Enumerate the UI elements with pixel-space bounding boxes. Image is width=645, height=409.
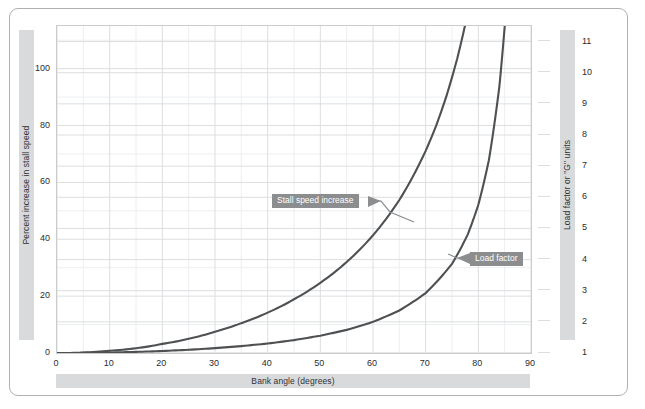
- y-axis-left-title-text: Percent increase in stall speed: [22, 126, 32, 245]
- y-axis-left-tick-40: 40: [40, 233, 50, 243]
- x-axis-tick-70: 70: [420, 358, 430, 368]
- y-axis-right-tick-7: 7: [582, 160, 587, 170]
- y-axis-left-tick-20: 20: [40, 290, 50, 300]
- x-axis-tick-30: 30: [209, 358, 219, 368]
- load-factor-curve: [57, 26, 507, 353]
- y-axis-right-tick-6: 6: [582, 191, 587, 201]
- y-axis-right-tick-4: 4: [582, 254, 587, 264]
- x-axis-tick-10: 10: [104, 358, 114, 368]
- y-axis-right-tickmark: [538, 227, 550, 228]
- x-axis-tick-80: 80: [472, 358, 482, 368]
- x-axis-tick-20: 20: [156, 358, 166, 368]
- plot-canvas: [57, 26, 531, 353]
- x-axis-tick-0: 0: [53, 358, 58, 368]
- x-axis-tick-60: 60: [367, 358, 377, 368]
- y-axis-right-tick-5: 5: [582, 222, 587, 232]
- y-axis-right-title: Load factor or "G" units: [560, 30, 575, 340]
- stall-speed-curve: [57, 26, 470, 353]
- y-axis-right-tick-8: 8: [582, 129, 587, 139]
- y-axis-right-tickmark: [538, 196, 550, 197]
- y-axis-right-tickmark: [538, 134, 550, 135]
- y-axis-right-tickmark: [538, 289, 550, 290]
- y-axis-right-tick-9: 9: [582, 98, 587, 108]
- y-axis-right-tickmark: [538, 258, 550, 259]
- y-axis-right-tickmark: [538, 40, 550, 41]
- annotation-load-factor-leader: [436, 253, 482, 287]
- y-axis-right-tickmark: [538, 352, 550, 353]
- y-axis-right-tick-3: 3: [582, 285, 587, 295]
- plot-area: [56, 25, 532, 354]
- annotation-stall-speed-label: Stall speed increase: [272, 194, 359, 208]
- y-axis-right-tickmark: [538, 165, 550, 166]
- y-axis-left-tick-100: 100: [35, 63, 50, 73]
- x-axis-title: Bank angle (degrees): [56, 374, 530, 388]
- y-axis-right-tickmark: [538, 320, 550, 321]
- x-axis-tick-90: 90: [525, 358, 535, 368]
- y-axis-left-tick-60: 60: [40, 176, 50, 186]
- y-axis-right-tick-2: 2: [582, 316, 587, 326]
- annotation-stall-speed-leader: [368, 196, 428, 236]
- y-axis-right-tick-10: 10: [582, 67, 592, 77]
- chart-figure: Percent increase in stall speed Load fac…: [0, 0, 645, 409]
- y-axis-right-tickmark: [538, 71, 550, 72]
- y-axis-left-tick-80: 80: [40, 120, 50, 130]
- y-axis-left-tick-0: 0: [45, 347, 50, 357]
- y-axis-left-title: Percent increase in stall speed: [19, 30, 34, 340]
- minor-gridlines: [57, 26, 531, 353]
- x-axis-title-text: Bank angle (degrees): [251, 376, 334, 386]
- y-axis-right-title-text: Load factor or "G" units: [563, 140, 573, 230]
- y-axis-right-tick-11: 11: [582, 36, 591, 46]
- x-axis-tick-50: 50: [314, 358, 324, 368]
- y-axis-right-tickmark: [538, 102, 550, 103]
- x-axis-tick-40: 40: [262, 358, 272, 368]
- y-axis-right-tick-1: 1: [582, 347, 587, 357]
